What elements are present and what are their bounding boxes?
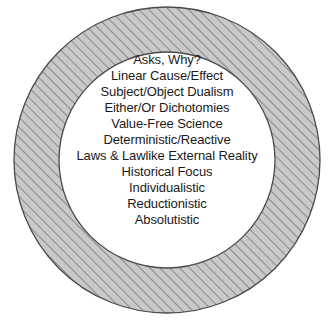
inner-circle: [59, 52, 275, 268]
hatched-ring-graphic: [0, 0, 334, 322]
diagram-canvas: Asks, Why? Linear Cause/Effect Subject/O…: [0, 0, 334, 322]
